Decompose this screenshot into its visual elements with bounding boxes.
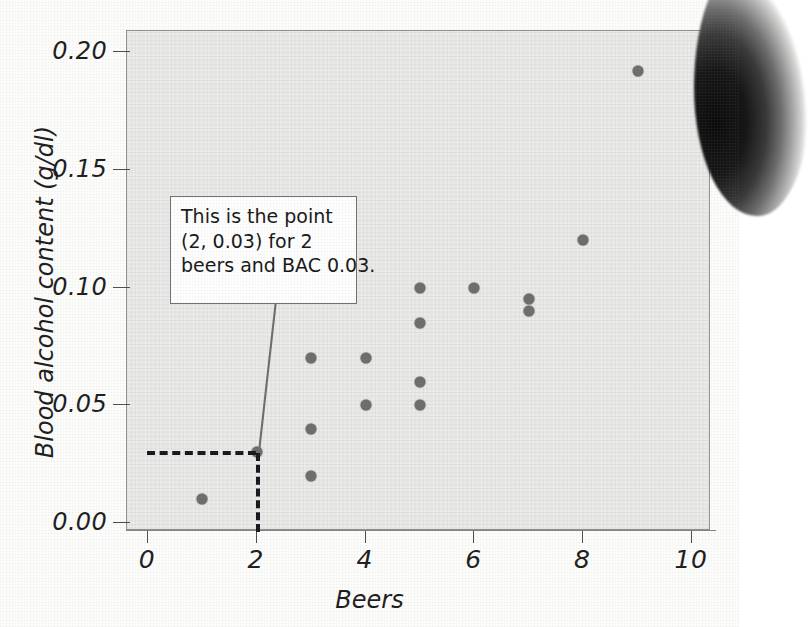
data-point [469, 282, 480, 293]
x-tick [365, 531, 366, 543]
guide-line-horizontal [147, 451, 256, 455]
data-point [197, 494, 208, 505]
y-tick [113, 169, 130, 170]
data-point [578, 235, 589, 246]
scanner-shadow [694, 0, 812, 216]
y-tick-label: 0.15 [52, 155, 107, 183]
data-point [306, 353, 317, 364]
data-point [360, 400, 371, 411]
x-tick-label: 6 [465, 545, 481, 574]
x-tick-label: 0 [139, 545, 155, 574]
x-axis-line [126, 530, 716, 531]
annotation-line-1: This is the point [181, 204, 347, 229]
y-tick [113, 51, 130, 52]
annotation-line-2: (2, 0.03) for 2 [181, 229, 347, 254]
y-axis-label: Blood alcohol content (g/dl) [31, 42, 59, 542]
data-point [360, 353, 371, 364]
annotation-line-3: beers and BAC 0.03. [181, 253, 347, 278]
annotation-leader-line [250, 300, 290, 456]
data-point [632, 65, 643, 76]
x-tick-label: 10 [675, 545, 708, 574]
guide-line-vertical [256, 453, 260, 532]
x-tick [473, 531, 474, 543]
y-tick-label: 0.05 [52, 390, 107, 418]
y-tick-label: 0.10 [52, 273, 107, 301]
data-point [523, 294, 534, 305]
x-tick [256, 531, 257, 543]
annotation-callout: This is the point (2, 0.03) for 2 beers … [170, 196, 357, 304]
x-tick-label: 8 [574, 545, 590, 574]
data-point [523, 306, 534, 317]
x-tick-label: 2 [248, 545, 264, 574]
data-point [306, 423, 317, 434]
data-point [306, 470, 317, 481]
y-tick-label: 0.00 [52, 508, 107, 536]
y-tick [113, 404, 130, 405]
x-tick [147, 531, 148, 543]
data-point [415, 317, 426, 328]
x-tick [582, 531, 583, 543]
data-point [415, 376, 426, 387]
y-tick-label: 0.20 [52, 37, 107, 65]
x-tick-label: 4 [356, 545, 372, 574]
y-tick [113, 287, 130, 288]
y-tick [113, 522, 130, 523]
data-point [415, 400, 426, 411]
x-axis-label: Beers [0, 586, 739, 614]
x-tick [691, 531, 692, 543]
data-point [415, 282, 426, 293]
